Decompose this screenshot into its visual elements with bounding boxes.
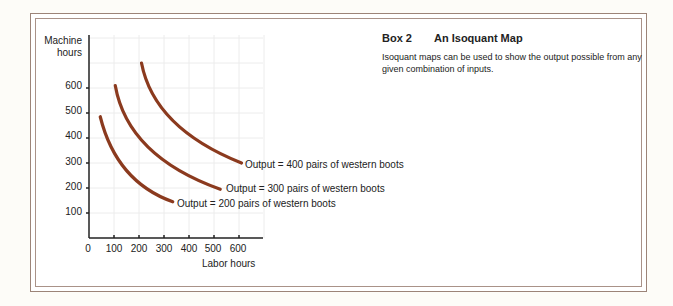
y-axis-label-line-1: Machine [38,35,82,47]
isoquant-curves [100,63,241,202]
y-tick-400: 400 [48,131,82,141]
y-tick-300: 300 [48,157,82,167]
x-axis-label: Labor hours [202,258,255,269]
isoquant-chart [0,0,673,306]
y-tick-200: 200 [48,182,82,192]
y-tick-100: 100 [48,207,82,217]
y-tick-500: 500 [48,106,82,116]
curve-label-400: Output = 400 pairs of western boots [245,159,404,171]
y-tick-600: 600 [48,81,82,91]
curve-label-200: Output = 200 pairs of western boots [177,198,336,210]
box-number: Box 2 [382,32,434,44]
curve-label-300: Output = 300 pairs of western boots [226,183,385,195]
box-description: Isoquant maps can be used to show the ou… [382,51,647,75]
box-heading: Box 2An Isoquant Map [382,32,523,44]
box-title: An Isoquant Map [434,32,523,44]
y-axis-label-line-2: hours [38,47,82,59]
y-axis-label: Machine hours [38,35,82,59]
x-tick-600: 600 [223,244,253,254]
